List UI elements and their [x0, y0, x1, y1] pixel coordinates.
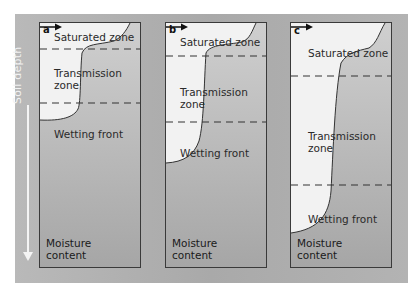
wetting-front-label: Wetting front: [54, 128, 123, 140]
right-arrow-icon: [166, 23, 188, 31]
transmission-zone-label: Transmission: [180, 86, 248, 98]
right-arrow-icon: [291, 23, 313, 31]
moisture-label-line1: Moisture: [172, 237, 217, 249]
wetting-front-label: Wetting front: [180, 147, 249, 159]
saturated-zone-label: Saturated zone: [180, 36, 260, 48]
panel-a: a Saturated zone Transmission zone Wetti…: [39, 22, 141, 268]
transmission-zone-label-2: zone: [180, 98, 205, 110]
soil-depth-axis-line: [27, 105, 29, 253]
saturated-zone-label: Saturated zone: [308, 47, 388, 59]
moisture-profile-a: [40, 23, 140, 267]
moisture-content-label: Moisture content: [297, 237, 342, 261]
moisture-label-line2: content: [172, 249, 217, 261]
transmission-zone-label-2: zone: [54, 79, 79, 91]
right-arrow-icon: [40, 23, 62, 31]
moisture-profile-c: [291, 23, 391, 267]
transmission-zone-label-2: zone: [308, 142, 333, 154]
moisture-label-line1: Moisture: [46, 237, 91, 249]
moisture-label-line2: content: [46, 249, 91, 261]
moisture-label-line2: content: [297, 249, 342, 261]
panel-c: c Saturated zone Transmission zone Wetti…: [290, 22, 392, 268]
saturated-zone-label: Saturated zone: [54, 31, 134, 43]
down-arrow-icon: [23, 252, 33, 261]
moisture-content-label: Moisture content: [46, 237, 91, 261]
panel-b: b Saturated zone Transmission zone Wetti…: [165, 22, 267, 268]
wetting-front-label: Wetting front: [308, 213, 377, 225]
moisture-content-label: Moisture content: [172, 237, 217, 261]
moisture-label-line1: Moisture: [297, 237, 342, 249]
transmission-zone-label: Transmission: [54, 67, 122, 79]
moisture-profile-b: [166, 23, 266, 267]
transmission-zone-label: Transmission: [308, 130, 376, 142]
